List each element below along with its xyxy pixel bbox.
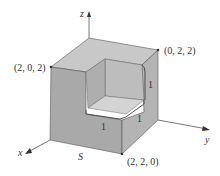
- point-label-2-0-2: (2, 0, 2): [14, 62, 46, 74]
- y-axis-label: y: [204, 134, 210, 145]
- z-arrow-icon: [87, 11, 91, 17]
- x-arrow-icon: [25, 148, 32, 154]
- y-axis: [158, 120, 210, 131]
- edge-label-front: 1: [101, 121, 106, 132]
- y-arrow-icon: [202, 126, 210, 131]
- point-label-2-2-0: (2, 2, 0): [127, 156, 159, 168]
- x-axis-label: x: [17, 147, 23, 158]
- point-label-0-2-2: (0, 2, 2): [164, 45, 196, 57]
- point-2-2-0-dot: [121, 153, 124, 156]
- z-axis-label: z: [79, 8, 84, 19]
- edge-label-vertical: 1: [148, 79, 153, 90]
- surface-label: S: [78, 151, 83, 162]
- edge-label-right: 1: [137, 113, 142, 124]
- point-0-2-2-dot: [157, 49, 160, 52]
- z-axis: [87, 11, 91, 38]
- x-axis: [25, 140, 50, 154]
- inner-back-wall: [105, 59, 144, 100]
- cube-diagram: z y x (2, 0, 2) (0, 2, 2) (2, 2, 0) S 1 …: [0, 0, 220, 176]
- point-2-0-2-dot: [50, 66, 53, 69]
